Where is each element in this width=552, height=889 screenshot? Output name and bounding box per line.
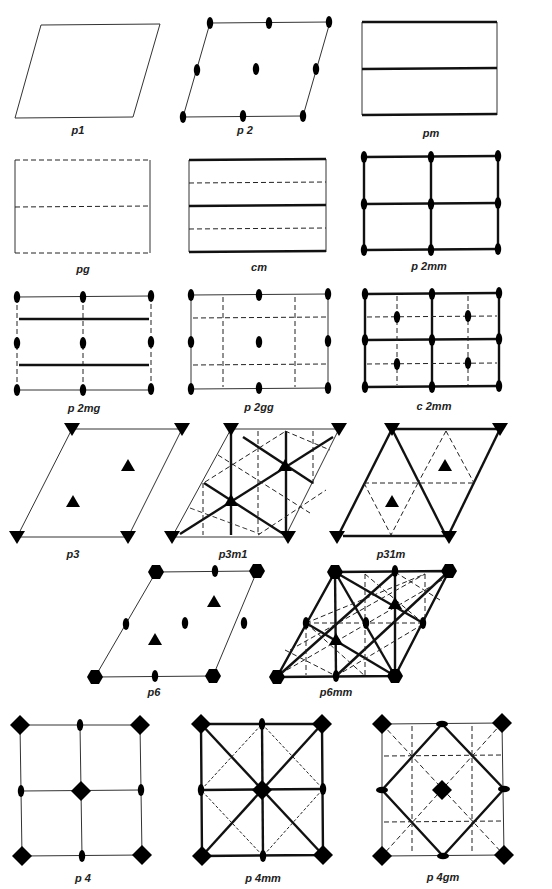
label-p2: p 2 [237, 124, 253, 136]
label-p4gm: p 4gm [427, 871, 459, 883]
diagram-p4mm [191, 714, 333, 866]
diagram-cm [189, 159, 326, 252]
diagram-p4 [10, 715, 152, 866]
diagram-p3m1 [164, 423, 347, 544]
label-p3: p3 [67, 548, 80, 560]
diagram-p2gg [188, 288, 331, 395]
label-cm: cm [251, 261, 267, 273]
diagram-p31m [329, 423, 508, 544]
label-p3m1: p3m1 [219, 548, 248, 560]
diagram-pm [362, 22, 497, 115]
label-p2mg: p 2mg [68, 402, 100, 414]
label-p6mm: p6mm [320, 686, 352, 698]
diagram-p6 [87, 564, 265, 684]
label-c2mm: c 2mm [417, 400, 452, 412]
diagram-p4gm [372, 713, 514, 866]
diagram-p2mm [361, 150, 501, 256]
label-pg: pg [76, 263, 89, 275]
diagram-p2mg [14, 290, 154, 396]
label-p1: p1 [72, 124, 85, 136]
label-pm: pm [423, 127, 440, 139]
label-p31m: p31m [377, 548, 406, 560]
label-p2mm: p 2mm [411, 260, 446, 272]
diagram-pg [15, 160, 150, 253]
diagram-p6mm [269, 564, 457, 684]
label-p4mm: p 4mm [245, 872, 280, 884]
diagram-c2mm [362, 287, 502, 393]
diagram-p1 [15, 24, 160, 118]
label-p2gg: p 2gg [244, 401, 273, 413]
diagram-p2 [180, 16, 332, 123]
diagram-p3 [9, 423, 190, 544]
label-p4: p 4 [75, 872, 91, 884]
label-p6: p6 [148, 686, 161, 698]
